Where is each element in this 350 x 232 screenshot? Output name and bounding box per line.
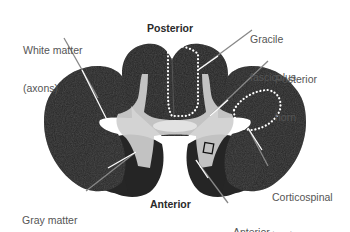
anterior-orientation-label: Anterior <box>150 198 191 210</box>
posterior-horn-label: Posterior horn <box>275 48 317 136</box>
posterior-orientation-label: Posterior <box>147 22 193 34</box>
gray-matter-label: Gray matter (neuron cell bodies) <box>22 189 114 232</box>
anterior-horn-label: Anterior horn <box>233 201 270 232</box>
white-matter-label: White matter (axons) <box>23 19 83 107</box>
corticospinal-tract-label: Corticospinal tract <box>272 166 333 232</box>
